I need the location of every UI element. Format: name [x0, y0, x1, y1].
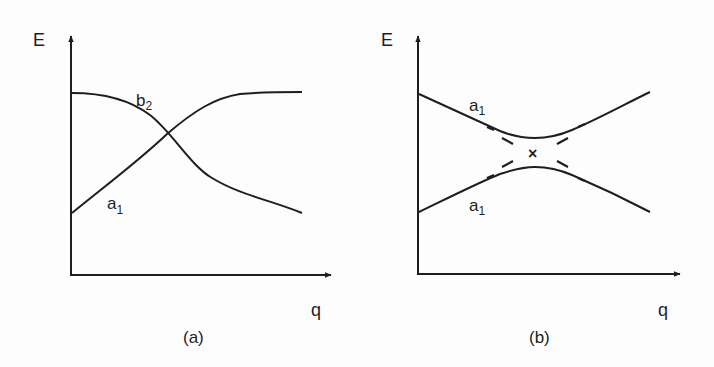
crossing-marker: × — [528, 145, 537, 162]
caption-a: (a) — [183, 328, 204, 347]
caption-b: (b) — [529, 328, 550, 347]
x-axis-label-a: q — [311, 300, 321, 320]
curve-label-a1-a: a1 — [107, 194, 123, 217]
y-axis-label-b: E — [381, 30, 393, 50]
curve-upper-a1-b — [419, 92, 650, 138]
curve-label-a1-lower: a1 — [469, 196, 485, 218]
curve-label-b2: b2 — [136, 91, 152, 113]
y-axis-label-a: E — [33, 30, 45, 50]
panel-a: E q (a) b2 a1 — [33, 30, 331, 347]
diagram-stage: E q (a) b2 a1 × E q (b) a1 a1 — [0, 0, 714, 367]
x-axis-label-b: q — [658, 300, 668, 320]
curve-lower-a1-b — [419, 167, 650, 212]
panel-b: × E q (b) a1 a1 — [381, 30, 680, 347]
curve-label-a1-upper: a1 — [469, 96, 485, 118]
energy-level-diagram: E q (a) b2 a1 × E q (b) a1 a1 — [0, 0, 714, 367]
